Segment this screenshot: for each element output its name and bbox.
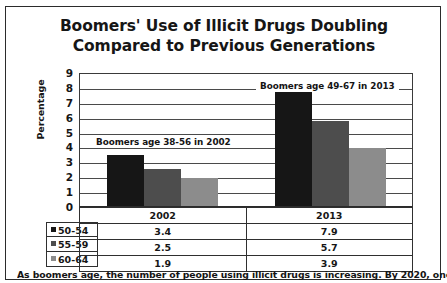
bar — [181, 178, 218, 206]
y-axis-tick-label: 1 — [53, 187, 73, 197]
bar — [349, 148, 386, 206]
table-cell: 7.9 — [246, 224, 413, 240]
table-cell: 5.7 — [246, 240, 413, 256]
gridline — [80, 134, 412, 135]
plot-area: Boomers age 38-56 in 2002Boomers age 49-… — [79, 73, 413, 207]
y-axis-tick-label: 2 — [53, 172, 73, 182]
chart-annotation: Boomers age 49-67 in 2013 — [256, 80, 399, 92]
data-table: 200220133.47.92.55.71.93.9 — [79, 207, 413, 272]
table-row: 3.47.9 — [80, 224, 413, 240]
legend-swatch-icon — [51, 241, 56, 246]
y-axis-tick-label: 9 — [53, 68, 73, 78]
legend-swatch-icon — [51, 227, 56, 232]
y-axis-tick-label: 8 — [53, 83, 73, 93]
chart-title: Boomers' Use of Illicit Drugs Doubling C… — [6, 16, 442, 56]
y-axis-tick-label: 0 — [53, 202, 73, 212]
table-cell: 2.5 — [80, 240, 247, 256]
bar — [275, 88, 312, 206]
gridline — [80, 119, 412, 120]
y-axis-tick-label: 3 — [53, 157, 73, 167]
gridline — [80, 104, 412, 105]
y-axis-tick-label: 6 — [53, 113, 73, 123]
legend-swatch-icon — [51, 256, 56, 261]
y-axis-title: Percentage — [35, 70, 46, 150]
chart-annotation: Boomers age 38-56 in 2002 — [92, 136, 235, 148]
bar — [144, 169, 181, 206]
table-column-header: 2013 — [246, 208, 413, 224]
chart-title-line-2: Compared to Previous Generations — [6, 36, 442, 56]
table-row: 2.55.7 — [80, 240, 413, 256]
chart-figure: Boomers' Use of Illicit Drugs Doubling C… — [5, 6, 441, 280]
table-column-header: 2002 — [80, 208, 247, 224]
table-header-row: 20022013 — [80, 208, 413, 224]
y-axis-tick-label: 5 — [53, 128, 73, 138]
bar — [107, 155, 144, 206]
y-axis-tick-label: 7 — [53, 98, 73, 108]
chart-title-line-1: Boomers' Use of Illicit Drugs Doubling — [6, 16, 442, 36]
y-axis-tick-label: 4 — [53, 142, 73, 152]
figure-caption: As boomers age, the number of people usi… — [17, 269, 447, 281]
table-cell: 3.4 — [80, 224, 247, 240]
bar — [312, 121, 349, 206]
